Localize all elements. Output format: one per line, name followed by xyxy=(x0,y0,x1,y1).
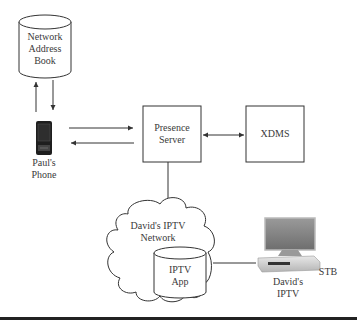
label-line: Presence xyxy=(143,122,201,134)
label-line: Network xyxy=(118,232,198,244)
label-line: David's xyxy=(268,276,308,288)
phone-label: Paul's Phone xyxy=(20,157,68,181)
label-line: David's IPTV xyxy=(118,220,198,232)
tv-stb-icon xyxy=(258,218,320,272)
stb-label: STB xyxy=(316,266,340,278)
label-line: Phone xyxy=(20,169,68,181)
label-line: Book xyxy=(19,55,71,67)
label-line: Paul's xyxy=(20,157,68,169)
label-line: IPTV xyxy=(268,288,308,300)
address-book-label: Network Address Book xyxy=(19,31,71,67)
iptv-network-label: David's IPTV Network xyxy=(118,220,198,244)
label-line: IPTV xyxy=(154,264,206,276)
label-line: Network xyxy=(19,31,71,43)
label-line: App xyxy=(154,276,206,288)
label-line: Server xyxy=(143,134,201,146)
label-line: Address xyxy=(19,43,71,55)
xdms-label: XDMS xyxy=(246,128,304,140)
presence-server-label: Presence Server xyxy=(143,122,201,146)
iptv-app-label: IPTV App xyxy=(154,264,206,288)
davids-iptv-label: David's IPTV xyxy=(268,276,308,300)
bottom-rule xyxy=(0,317,357,320)
phone-icon xyxy=(36,121,52,155)
